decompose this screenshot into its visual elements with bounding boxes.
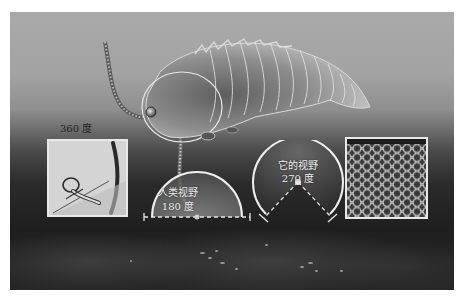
creature-fov-diagram <box>248 140 348 230</box>
photo-frame: 360 度 人类视野 180 度 <box>10 12 454 290</box>
compound-eye-inset <box>345 137 428 219</box>
label-360-degrees: 360 度 <box>60 122 100 135</box>
creature-view-angle: 270 度 <box>273 172 323 185</box>
compound-eye-facets <box>347 139 426 217</box>
creature-view-title: 它的视野 <box>273 159 323 172</box>
inner-ear-drawing <box>49 141 126 215</box>
human-view-title: 人类视野 <box>153 186 203 199</box>
inner-ear-inset <box>47 139 128 217</box>
human-view-angle: 180 度 <box>153 200 203 213</box>
